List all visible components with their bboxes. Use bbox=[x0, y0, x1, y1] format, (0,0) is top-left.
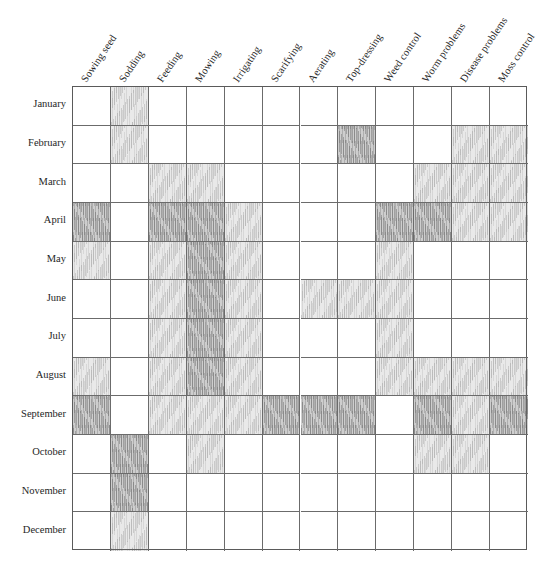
heatmap-cell bbox=[452, 126, 490, 165]
heatmap-cell-fill bbox=[452, 512, 489, 551]
heatmap-cell-fill bbox=[263, 474, 300, 512]
heatmap-cell bbox=[338, 319, 376, 358]
heatmap-cell-fill bbox=[149, 358, 186, 396]
heatmap-cell bbox=[225, 87, 263, 126]
heatmap-cell bbox=[376, 87, 414, 126]
heatmap-cell bbox=[376, 280, 414, 319]
heatmap-cell bbox=[225, 203, 263, 242]
heatmap-cell bbox=[414, 87, 452, 126]
heatmap-cell-fill bbox=[452, 164, 489, 202]
heatmap-cell-fill bbox=[263, 126, 300, 164]
heatmap-cell-fill bbox=[263, 280, 300, 318]
heatmap-cell bbox=[414, 203, 452, 242]
column-header-aerating: Aerating bbox=[306, 47, 336, 84]
heatmap-cell-fill bbox=[414, 435, 451, 473]
heatmap-cell bbox=[263, 242, 301, 281]
heatmap-cell-fill bbox=[301, 512, 338, 551]
heatmap-cell bbox=[225, 396, 263, 435]
heatmap-cell bbox=[73, 474, 111, 513]
heatmap-cell bbox=[452, 242, 490, 281]
heatmap-cell-fill bbox=[414, 396, 451, 434]
heatmap-cell bbox=[73, 242, 111, 281]
heatmap-cell-fill bbox=[111, 319, 148, 357]
heatmap-cell-fill bbox=[225, 512, 262, 551]
heatmap-cell-fill bbox=[338, 203, 375, 241]
heatmap-cell-fill bbox=[452, 242, 489, 280]
heatmap-cell-fill bbox=[414, 242, 451, 280]
heatmap-cell-fill bbox=[263, 164, 300, 202]
heatmap-cell-fill bbox=[490, 242, 528, 280]
heatmap-cell bbox=[301, 164, 339, 203]
heatmap-cell bbox=[225, 242, 263, 281]
heatmap-cell-fill bbox=[263, 203, 300, 241]
heatmap-cell bbox=[73, 319, 111, 358]
heatmap-cell bbox=[149, 203, 187, 242]
heatmap-cell bbox=[111, 512, 149, 551]
heatmap-cell-fill bbox=[490, 164, 528, 202]
heatmap-cell bbox=[73, 280, 111, 319]
heatmap-cell-fill bbox=[187, 396, 224, 434]
heatmap-cell bbox=[452, 396, 490, 435]
heatmap-cell-fill bbox=[338, 512, 375, 551]
heatmap-cell-fill bbox=[187, 319, 224, 357]
heatmap-cell-fill bbox=[301, 164, 338, 202]
heatmap-cell-fill bbox=[111, 358, 148, 396]
heatmap-cell-fill bbox=[149, 164, 186, 202]
heatmap-cell bbox=[111, 242, 149, 281]
row-label-february: February bbox=[0, 137, 66, 148]
heatmap-cell-fill bbox=[187, 87, 224, 125]
heatmap-cell bbox=[376, 474, 414, 513]
heatmap-cell-fill bbox=[111, 126, 148, 164]
heatmap-cell bbox=[490, 435, 528, 474]
heatmap-cell-fill bbox=[301, 280, 338, 318]
heatmap-cell-fill bbox=[73, 87, 110, 125]
heatmap-cell-fill bbox=[149, 203, 186, 241]
heatmap-cell-fill bbox=[376, 280, 413, 318]
heatmap-cell bbox=[263, 512, 301, 551]
heatmap-cell bbox=[187, 280, 225, 319]
heatmap-cell-fill bbox=[263, 512, 300, 551]
heatmap-cell bbox=[490, 396, 528, 435]
heatmap-cell-fill bbox=[452, 358, 489, 396]
heatmap-cell bbox=[73, 396, 111, 435]
column-header-sodding: Sodding bbox=[117, 48, 146, 84]
heatmap-cell-fill bbox=[225, 358, 262, 396]
heatmap-cell-fill bbox=[301, 203, 338, 241]
heatmap-cell bbox=[414, 358, 452, 397]
heatmap-cell-fill bbox=[490, 319, 528, 357]
heatmap-cell-fill bbox=[376, 319, 413, 357]
heatmap-cell bbox=[452, 87, 490, 126]
heatmap-cell bbox=[149, 87, 187, 126]
heatmap-cell-fill bbox=[338, 319, 375, 357]
heatmap-cell-fill bbox=[187, 164, 224, 202]
heatmap-cell bbox=[149, 512, 187, 551]
heatmap-cell-fill bbox=[376, 126, 413, 164]
heatmap-cell bbox=[301, 87, 339, 126]
heatmap-cell-fill bbox=[149, 280, 186, 318]
heatmap-cell bbox=[149, 280, 187, 319]
heatmap-cell-fill bbox=[301, 319, 338, 357]
heatmap-cell bbox=[263, 319, 301, 358]
row-label-column: JanuaryFebruaryMarchAprilMayJuneJulyAugu… bbox=[0, 86, 70, 550]
heatmap-cell bbox=[187, 396, 225, 435]
heatmap-cell-fill bbox=[73, 435, 110, 473]
heatmap-cell-fill bbox=[225, 126, 262, 164]
heatmap-cell-fill bbox=[225, 242, 262, 280]
heatmap-cell-fill bbox=[187, 474, 224, 512]
heatmap-cell bbox=[490, 203, 528, 242]
heatmap-cell bbox=[490, 319, 528, 358]
heatmap-cell-fill bbox=[414, 512, 451, 551]
heatmap-cell-fill bbox=[452, 280, 489, 318]
heatmap-cell-fill bbox=[187, 126, 224, 164]
heatmap-cell bbox=[111, 280, 149, 319]
heatmap-cell-fill bbox=[490, 126, 528, 164]
heatmap-cell bbox=[376, 242, 414, 281]
heatmap-cell-fill bbox=[149, 126, 186, 164]
heatmap-cell-fill bbox=[376, 242, 413, 280]
heatmap-cell bbox=[149, 164, 187, 203]
heatmap-cell-fill bbox=[111, 474, 148, 512]
heatmap-cell-fill bbox=[73, 474, 110, 512]
heatmap-cell bbox=[414, 164, 452, 203]
heatmap-cell-fill bbox=[187, 435, 224, 473]
heatmap-cell bbox=[111, 396, 149, 435]
